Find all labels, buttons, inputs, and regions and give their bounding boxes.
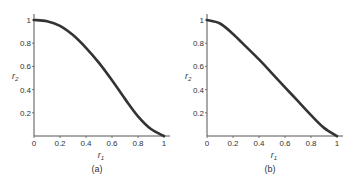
- x-tick-label: 0: [205, 139, 210, 148]
- x-axis-label: r1: [98, 150, 104, 161]
- y-tick-label: 1: [27, 16, 32, 25]
- x-tick-label: 0.8: [132, 139, 144, 148]
- y-axis-label: r2: [185, 71, 192, 82]
- figure: 00.20.40.60.810.20.40.60.81r1r2(a) 00.20…: [0, 0, 355, 177]
- y-tick-label: 0.2: [193, 109, 205, 118]
- data-curve: [207, 20, 337, 136]
- y-tick-label: 0.6: [20, 62, 32, 71]
- x-axis-label: r1: [271, 150, 277, 161]
- x-tick-label: 0: [32, 139, 37, 148]
- y-tick-label: 0.6: [193, 62, 205, 71]
- y-tick-label: 1: [200, 16, 205, 25]
- y-tick-label: 0.4: [193, 86, 205, 95]
- y-tick-label: 0.8: [20, 39, 32, 48]
- x-tick-label: 0.2: [54, 139, 66, 148]
- data-curve: [34, 20, 164, 136]
- chart-panel-a: 00.20.40.60.810.20.40.60.81r1r2(a): [12, 14, 170, 174]
- x-tick-label: 1: [335, 139, 340, 148]
- x-tick-label: 0.2: [227, 139, 239, 148]
- panel-caption: (b): [265, 164, 276, 174]
- y-tick-label: 0.8: [193, 39, 205, 48]
- panel-caption: (a): [92, 164, 103, 174]
- x-tick-label: 1: [162, 139, 167, 148]
- y-tick-label: 0.2: [20, 109, 32, 118]
- x-tick-label: 0.8: [305, 139, 317, 148]
- y-tick-label: 0.4: [20, 86, 32, 95]
- y-axis-label: r2: [12, 71, 19, 82]
- x-tick-label: 0.4: [253, 139, 265, 148]
- x-tick-label: 0.6: [106, 139, 118, 148]
- chart-panel-b: 00.20.40.60.810.20.40.60.81r1r2(b): [185, 14, 343, 174]
- x-tick-label: 0.4: [80, 139, 92, 148]
- x-tick-label: 0.6: [279, 139, 291, 148]
